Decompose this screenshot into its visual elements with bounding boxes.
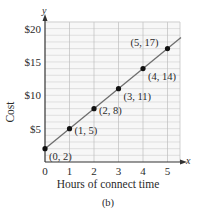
data-point-marker xyxy=(165,46,170,51)
x-tick-label: 1 xyxy=(67,165,73,177)
point-label: (0, 2) xyxy=(49,151,72,163)
data-point-marker xyxy=(67,126,72,131)
data-point-marker xyxy=(116,86,121,91)
x-tick-label: 5 xyxy=(165,165,171,177)
point-label: (3, 11) xyxy=(124,91,152,103)
x-tick-label: 0 xyxy=(42,165,48,177)
data-point-marker xyxy=(42,146,47,151)
x-tick-label: 4 xyxy=(140,165,146,177)
y-axis-variable: y xyxy=(41,5,47,16)
y-tick-label: $10 xyxy=(25,89,42,101)
figure-caption: (b) xyxy=(102,197,115,209)
point-label: (4, 14) xyxy=(148,71,176,83)
data-point-marker xyxy=(140,66,145,71)
y-axis-title: Cost xyxy=(4,101,16,123)
x-tick-label: 2 xyxy=(91,165,97,177)
cost-chart: 012345$5$10$15$20 (0, 2)(1, 5)(2, 8)(3, … xyxy=(0,0,199,209)
y-tick-label: $5 xyxy=(30,123,42,135)
point-label: (1, 5) xyxy=(75,125,98,137)
y-tick-label: $15 xyxy=(25,56,42,68)
data-point-marker xyxy=(91,106,96,111)
grid xyxy=(45,22,180,162)
point-label: (2, 8) xyxy=(99,105,122,117)
x-axis-variable: x xyxy=(185,155,191,166)
x-tick-label: 3 xyxy=(116,165,122,177)
x-axis-title: Hours of connect time xyxy=(57,178,160,190)
point-label: (5, 17) xyxy=(131,37,159,49)
y-tick-label: $20 xyxy=(25,23,42,35)
plot-area xyxy=(45,22,180,162)
